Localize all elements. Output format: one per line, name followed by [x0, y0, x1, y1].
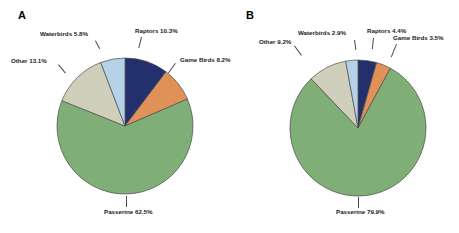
label-other-b: Other 9.2% — [259, 38, 291, 45]
panel-b-pie — [289, 59, 427, 197]
label-passerine-b: Passerine 79.9% — [336, 208, 385, 215]
label-passerine-a: Passerine 62.5% — [104, 208, 153, 215]
panel-b: B Waterbirds 2.9% Other 9.2% Raptors 4.4… — [230, 0, 459, 233]
leader-line-waterbirds-b — [354, 40, 356, 50]
panel-a-pie — [56, 57, 194, 195]
leader-line-gamebirds-b — [391, 44, 397, 57]
label-other-a: Other 13.1% — [11, 57, 47, 64]
leader-line-other-b — [294, 45, 302, 55]
label-gamebirds-a: Game Birds 8.2% — [180, 56, 231, 63]
panel-a-letter: A — [18, 10, 26, 21]
leader-line-waterbirds-a — [95, 41, 100, 49]
label-gamebirds-b: Game Birds 3.5% — [393, 34, 444, 41]
leader-line-passerine-b — [358, 197, 359, 208]
label-raptors-b: Raptors 4.4% — [367, 27, 406, 34]
label-waterbirds-b: Waterbirds 2.9% — [298, 29, 346, 36]
panel-a: A Waterbirds 5.8% Other 13.1% Raptors 10… — [0, 0, 229, 233]
leader-line-raptors-b — [372, 38, 374, 49]
leader-line-passerine-a — [126, 196, 127, 207]
panel-b-pie-svg — [289, 59, 427, 197]
label-waterbirds-a: Waterbirds 5.8% — [40, 30, 88, 37]
leader-line-raptors-a — [138, 37, 142, 48]
figure-two-pie-charts: A Waterbirds 5.8% Other 13.1% Raptors 10… — [0, 0, 459, 233]
panel-a-pie-svg — [56, 57, 194, 195]
panel-b-letter: B — [246, 10, 254, 21]
label-raptors-a: Raptors 10.3% — [135, 27, 178, 34]
